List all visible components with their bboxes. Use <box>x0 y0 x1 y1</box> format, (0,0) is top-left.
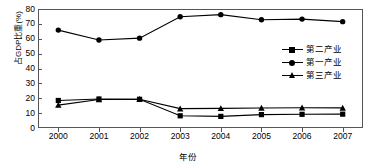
legend-item-0[interactable]: 第二产业 <box>282 43 342 56</box>
chart-container: 占GDP比重(%) 01020304050607080 200020012002… <box>0 0 375 167</box>
data-point <box>218 114 223 119</box>
data-point <box>56 27 61 32</box>
series-2 <box>56 12 346 43</box>
legend-label-1: 第一产业 <box>306 57 342 68</box>
data-point <box>96 37 101 42</box>
series-3 <box>55 96 346 111</box>
legend-marker-square-icon <box>282 44 303 55</box>
data-point <box>259 112 264 117</box>
data-point <box>299 112 304 117</box>
legend: 第二产业 第一产业 第三产业 <box>282 43 342 82</box>
legend-label-2: 第三产业 <box>306 70 342 81</box>
data-point <box>178 113 183 118</box>
data-point <box>299 16 304 21</box>
data-point <box>340 19 345 24</box>
series-layer <box>0 0 375 167</box>
legend-label-0: 第二产业 <box>306 44 342 55</box>
data-point <box>259 17 264 22</box>
legend-marker-triangle-icon <box>282 70 303 81</box>
legend-item-2[interactable]: 第三产业 <box>282 69 342 82</box>
legend-marker-circle-icon <box>282 57 303 68</box>
data-point <box>137 35 142 40</box>
data-point <box>340 112 345 117</box>
legend-item-1[interactable]: 第一产业 <box>282 56 342 69</box>
data-point <box>177 14 182 19</box>
x-axis-title: 年份 <box>0 150 375 162</box>
data-point <box>218 12 223 17</box>
